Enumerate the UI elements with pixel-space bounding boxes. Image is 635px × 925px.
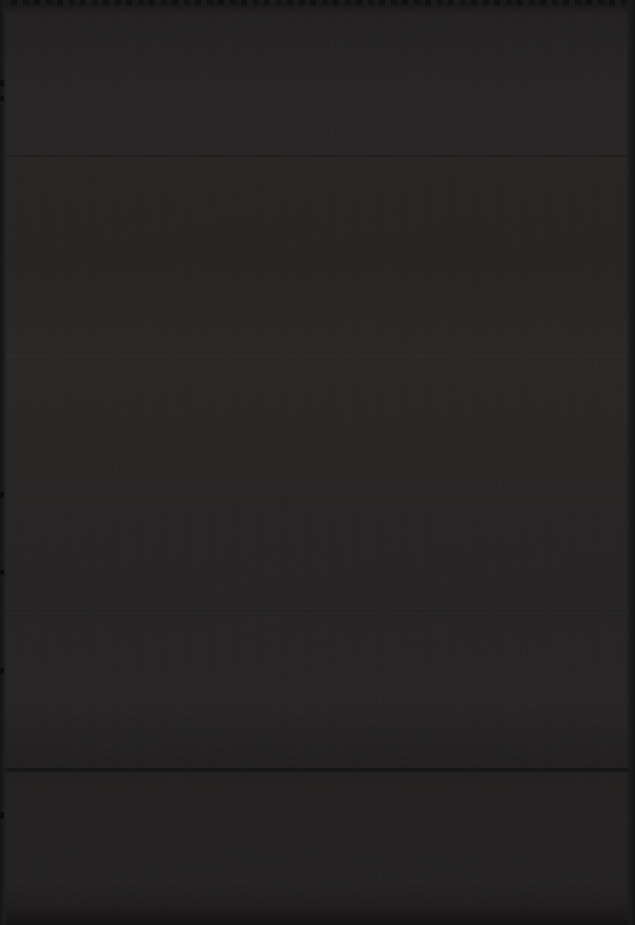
page-edge-bottom [0, 903, 635, 925]
page-edge-top [0, 0, 635, 14]
edge-nick [0, 812, 4, 819]
edge-nick [0, 80, 4, 87]
edge-nick [0, 570, 4, 575]
edge-nick [0, 492, 4, 498]
edge-nick [0, 668, 4, 674]
page-edge-left [0, 0, 7, 925]
page-edge-top-ragged [0, 0, 635, 5]
edge-nick [0, 96, 4, 101]
page-canvas: Blank dark page with no rendered text, f… [0, 0, 635, 925]
page-edge-right [626, 0, 635, 925]
page-content-area: Blank dark page with no rendered text, f… [7, 14, 626, 903]
